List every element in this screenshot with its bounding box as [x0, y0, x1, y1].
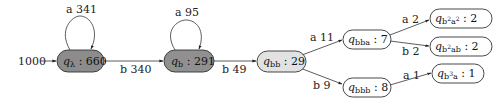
input-label: 1000	[18, 55, 46, 68]
node-q-lambda: qλ : 660	[57, 50, 107, 72]
edge-q-bba-to-q-b2a2: a 2	[390, 13, 429, 35]
input-edge: 1000	[18, 55, 56, 68]
svg-text:qbb : 29: qbb : 29	[263, 55, 305, 69]
edge-label: b 49	[222, 63, 247, 76]
edge-q-bba-to-q-b2ab: b 2	[390, 41, 429, 58]
edge-label: a 95	[175, 6, 199, 19]
edge-q-bb-to-q-bba: a 11	[302, 31, 342, 55]
node-q-b3a: qb3a : 1	[432, 64, 484, 83]
edge-label: b 9	[313, 79, 331, 92]
edge-label: a 2	[402, 13, 419, 26]
node-q-b2ab: qb2ab : 2	[430, 37, 492, 56]
automaton-diagram: 1000 a 341 b 340 a 95 b 49 a 11 b 9 a 2 …	[0, 0, 497, 107]
node-q-bb: qbb : 29	[257, 51, 306, 72]
edge-q-b-to-q-bb: b 49	[214, 61, 256, 76]
edge-q-bb-to-q-bbb: b 9	[300, 68, 342, 92]
svg-text:qλ : 660: qλ : 660	[63, 55, 107, 69]
self-loop-arrow	[171, 20, 202, 50]
node-q-bba: qbba : 7	[343, 30, 391, 49]
node-q-b: qb : 291	[164, 50, 215, 72]
edge-label: b 2	[402, 45, 420, 58]
edge-q-bbb-to-q-b3a: a 1	[390, 69, 431, 85]
edge-q-lambda-to-q-b: b 340	[104, 61, 163, 76]
edge-q-b-self-loop: a 95	[171, 6, 202, 50]
self-loop-arrow	[65, 16, 94, 50]
node-q-b2a2: qb2a2 : 2	[430, 9, 492, 28]
svg-text:qb : 291: qb : 291	[171, 55, 215, 69]
edge-label: a 1	[403, 69, 420, 82]
edge-label: a 11	[310, 31, 334, 44]
edge-label: a 341	[66, 3, 97, 16]
node-q-bbb: qbbb : 8	[343, 78, 391, 97]
edge-q-lambda-self-loop: a 341	[65, 3, 97, 50]
edge-label: b 340	[120, 63, 152, 76]
